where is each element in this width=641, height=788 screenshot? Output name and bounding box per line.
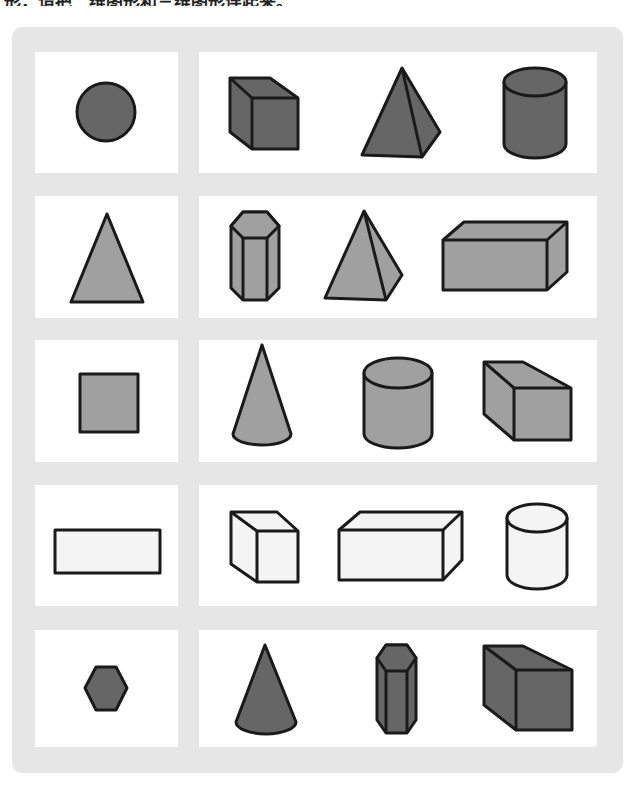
hexagonal-prism-shape[interactable] xyxy=(231,212,279,300)
rectangular-prism-shape[interactable] xyxy=(339,512,462,580)
cone-shape[interactable] xyxy=(236,645,296,734)
rectangle-shape[interactable] xyxy=(55,530,160,573)
square-pyramid-shape[interactable] xyxy=(325,211,402,300)
cylinder-shape[interactable] xyxy=(507,504,567,589)
cone-shape[interactable] xyxy=(233,345,291,445)
circle-shape[interactable] xyxy=(77,83,135,141)
triangle-shape[interactable] xyxy=(71,214,143,302)
square-shape[interactable] xyxy=(80,374,138,432)
square-pyramid-shape[interactable] xyxy=(362,68,440,157)
cube-shape[interactable] xyxy=(484,362,571,440)
cube-shape[interactable] xyxy=(231,512,298,582)
rectangular-prism-shape[interactable] xyxy=(443,222,567,290)
cylinder-shape[interactable] xyxy=(364,358,432,448)
cube-shape[interactable] xyxy=(484,646,572,730)
hexagonal-prism-shape[interactable] xyxy=(377,645,416,733)
cube-shape[interactable] xyxy=(230,78,298,149)
cylinder-shape[interactable] xyxy=(504,68,566,158)
hexagon-shape[interactable] xyxy=(85,667,127,710)
